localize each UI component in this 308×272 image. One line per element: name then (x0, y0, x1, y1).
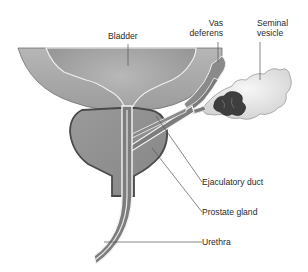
label-bladder: Bladder (108, 31, 138, 41)
label-seminal-vesicle-line2: vesicle (257, 28, 288, 38)
leader-prostate-gland (152, 148, 202, 212)
label-vas-deferens: Vas deferens (183, 18, 223, 38)
prostate-gland (70, 108, 167, 196)
prostate-anatomy-diagram (0, 0, 308, 272)
label-seminal-vesicle-line1: Seminal (257, 18, 288, 28)
label-prostate-gland: Prostate gland (202, 207, 257, 217)
label-vas-deferens-line2: deferens (183, 28, 223, 38)
label-vas-deferens-line1: Vas (183, 18, 223, 28)
label-seminal-vesicle: Seminal vesicle (257, 18, 288, 38)
prostate-body (70, 108, 167, 196)
label-urethra: Urethra (202, 237, 231, 247)
label-ejaculatory-duct: Ejaculatory duct (202, 177, 263, 187)
